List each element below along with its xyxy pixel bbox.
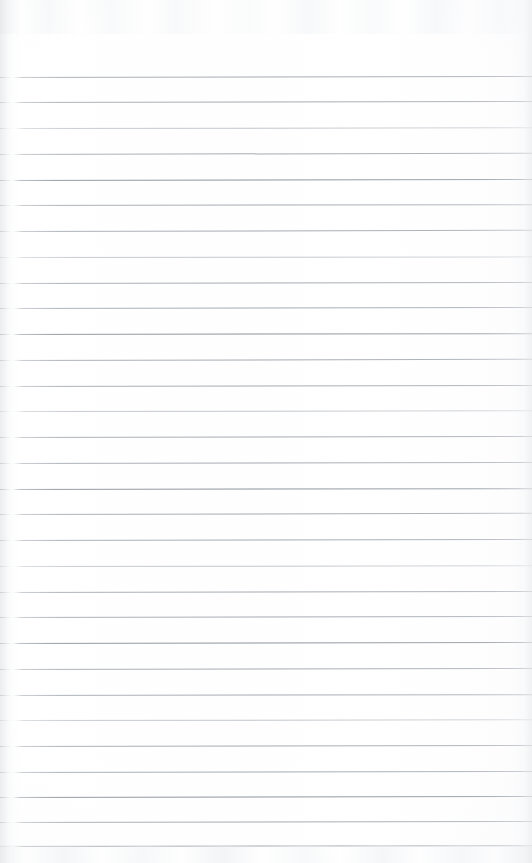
rule-line [0, 410, 532, 412]
rule-line [0, 796, 532, 798]
ruled-lines-layer [0, 0, 532, 863]
rule-line [0, 436, 532, 438]
rule-line [0, 282, 532, 284]
rule-line [0, 668, 532, 670]
rule-line [0, 307, 532, 309]
rule-line [0, 539, 532, 541]
rule-line [0, 462, 532, 464]
rule-line [0, 719, 532, 721]
rule-line [0, 230, 532, 232]
rule-line [0, 127, 532, 129]
rule-line [0, 153, 532, 155]
rule-line [0, 845, 532, 847]
rule-line [0, 565, 532, 567]
rule-line [0, 256, 532, 258]
rule-line [0, 771, 532, 773]
rule-line [0, 694, 532, 696]
rule-line [0, 101, 532, 103]
rule-line [0, 488, 532, 490]
rule-line [0, 359, 532, 361]
rule-line [0, 333, 532, 335]
rule-line [0, 821, 532, 823]
rule-line [0, 204, 532, 206]
rule-line [0, 385, 532, 387]
rule-line [0, 513, 532, 515]
rule-line [0, 591, 532, 593]
rule-line [0, 76, 532, 78]
rule-line [0, 616, 532, 618]
rule-line [0, 745, 532, 747]
rule-line [0, 179, 532, 181]
rule-line [0, 642, 532, 644]
scanned-page [0, 0, 532, 863]
